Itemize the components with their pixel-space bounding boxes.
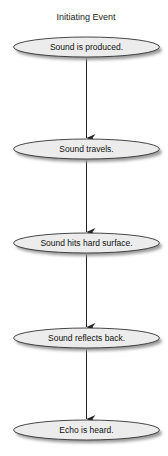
node-sound-produced: Sound is produced.	[14, 37, 163, 60]
node-label: Sound reflects back.	[48, 333, 125, 343]
node-label: Echo is heard.	[59, 425, 113, 435]
node-sound-travels: Sound travels.	[14, 139, 163, 162]
flowchart: Initiating Event Sound is produced. Soun…	[0, 0, 168, 456]
node-echo-heard: Echo is heard.	[14, 420, 163, 443]
node-sound-reflects: Sound reflects back.	[14, 328, 163, 351]
diagram-title: Initiating Event	[56, 12, 116, 22]
node-sound-hits-surface: Sound hits hard surface.	[14, 233, 163, 256]
node-label: Sound travels.	[59, 144, 113, 154]
node-label: Sound is produced.	[50, 42, 123, 52]
node-label: Sound hits hard surface.	[40, 238, 132, 248]
